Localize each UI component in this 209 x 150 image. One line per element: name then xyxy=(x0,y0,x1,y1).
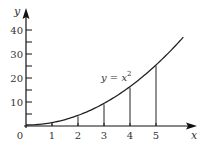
x-tick-label-3: 3 xyxy=(101,130,107,141)
annotation-exponent: 2 xyxy=(127,70,131,78)
curve-annotation: y = x2 xyxy=(100,70,132,83)
chart: 10203040012345 x y y = x2 xyxy=(0,0,209,150)
x-tick-label-1: 1 xyxy=(49,130,55,141)
y-axis-label: y xyxy=(13,5,21,18)
axes xyxy=(23,8,198,130)
x-tick-label-5: 5 xyxy=(153,130,159,141)
y-tick-label-20: 20 xyxy=(10,73,23,84)
x-axis-label: x xyxy=(191,129,198,142)
tick-labels: 10203040012345 xyxy=(10,25,159,142)
annotation-equals: = xyxy=(107,72,122,83)
x-tick-label-2: 2 xyxy=(75,130,81,141)
y-tick-label-10: 10 xyxy=(10,97,23,108)
x-tick-label-0: 0 xyxy=(17,130,23,141)
y-tick-label-40: 40 xyxy=(10,25,23,36)
x-tick-label-4: 4 xyxy=(127,130,133,141)
y-tick-label-30: 30 xyxy=(10,49,23,60)
